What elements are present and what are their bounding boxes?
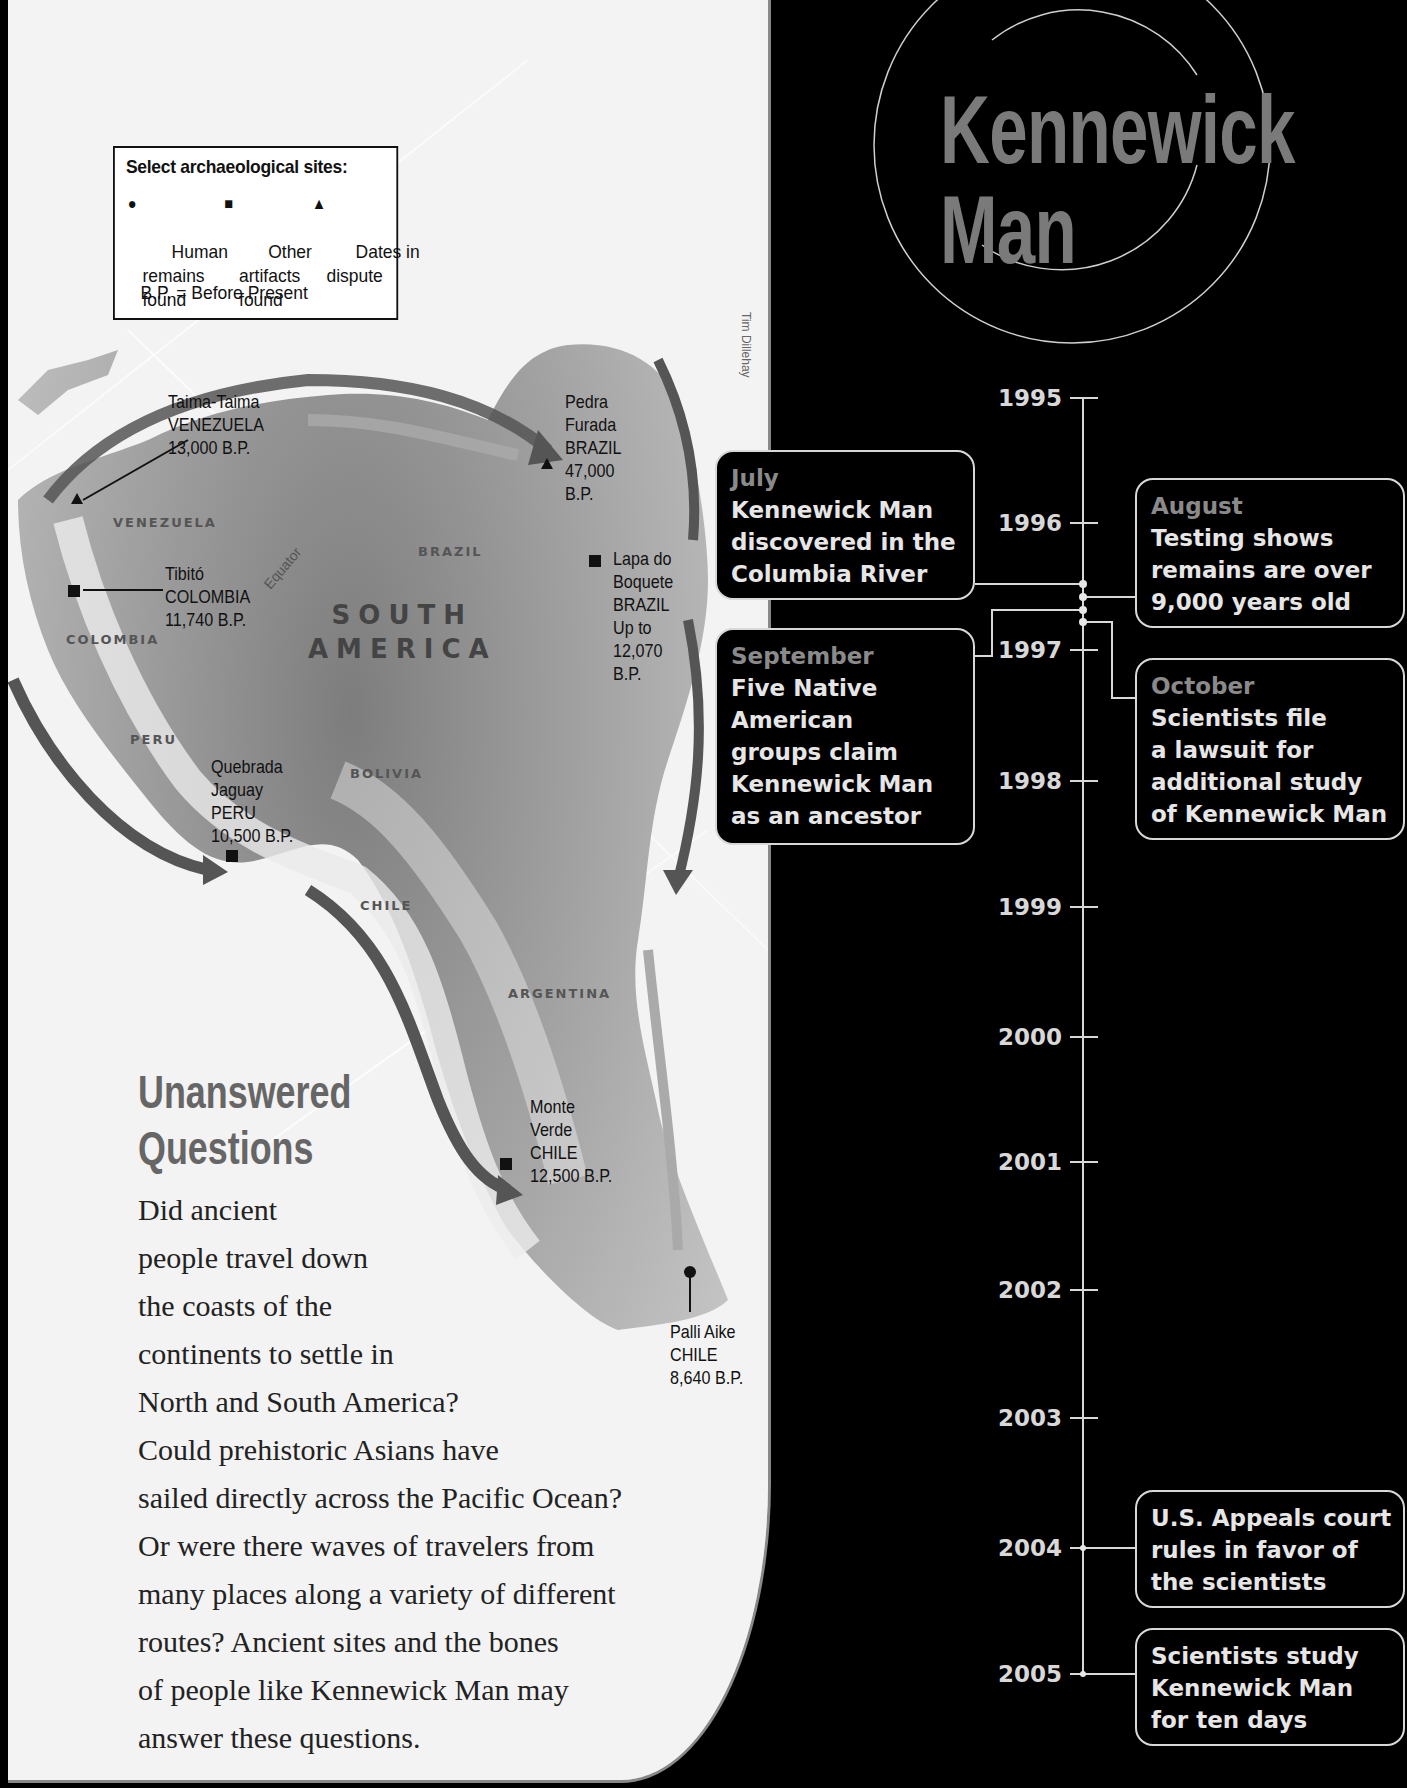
year-label-2005: 2005 (962, 1661, 1062, 1687)
event-month: July (731, 462, 959, 494)
year-label-2000: 2000 (962, 1024, 1062, 1050)
year-label-1996: 1996 (962, 510, 1062, 536)
event-description: Scientists file a lawsuit for additional… (1151, 702, 1389, 830)
event-dot (1080, 1545, 1086, 1551)
event-card-august-1996: August Testing shows remains are over 9,… (1135, 478, 1405, 628)
year-label-1998: 1998 (962, 768, 1062, 794)
event-card-september-1996: September Five Native American groups cl… (715, 628, 975, 845)
year-label-2001: 2001 (962, 1149, 1062, 1175)
year-label-2004: 2004 (962, 1535, 1062, 1561)
year-label-2003: 2003 (962, 1405, 1062, 1431)
event-description: Kennewick Man discovered in the Columbia… (731, 494, 959, 590)
year-label-1995: 1995 (962, 385, 1062, 411)
event-dot (1079, 606, 1087, 614)
event-dot (1079, 593, 1087, 601)
event-description: Testing shows remains are over 9,000 yea… (1151, 522, 1389, 618)
year-label-1999: 1999 (962, 894, 1062, 920)
event-dot (1079, 618, 1087, 626)
connector-october (1083, 622, 1135, 698)
event-card-2004: U.S. Appeals court rules in favor of the… (1135, 1490, 1405, 1608)
year-label-2002: 2002 (962, 1277, 1062, 1303)
event-month: October (1151, 670, 1389, 702)
event-description: Five Native American groups claim Kennew… (731, 672, 959, 832)
year-label-1997: 1997 (962, 637, 1062, 663)
event-dot (1080, 1671, 1086, 1677)
event-month: August (1151, 490, 1389, 522)
event-card-2005: Scientists study Kennewick Man for ten d… (1135, 1628, 1405, 1746)
event-dot (1079, 580, 1087, 588)
event-card-july-1996: July Kennewick Man discovered in the Col… (715, 450, 975, 600)
event-description: U.S. Appeals court rules in favor of the… (1151, 1502, 1389, 1598)
event-description: Scientists study Kennewick Man for ten d… (1151, 1640, 1389, 1736)
event-month: September (731, 640, 959, 672)
event-card-october-1996: October Scientists file a lawsuit for ad… (1135, 658, 1405, 840)
